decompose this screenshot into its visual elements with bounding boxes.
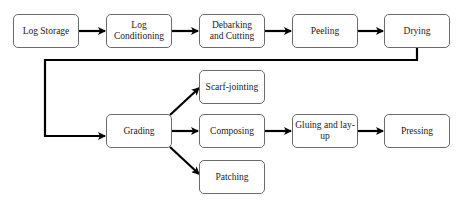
arrow-grading-to-patching: [170, 147, 199, 174]
node-grading: Grading: [106, 114, 172, 148]
node-label: Gluing and lay-up: [293, 120, 357, 142]
node-composing: Composing: [199, 114, 265, 148]
node-label: Log Storage: [23, 26, 70, 37]
node-label: Peeling: [311, 26, 340, 37]
node-patching: Patching: [199, 160, 265, 194]
node-label: Drying: [404, 26, 431, 37]
node-log-storage: Log Storage: [13, 14, 79, 48]
node-label: Pressing: [401, 126, 433, 137]
arrow-grading-to-scarf: [170, 88, 199, 115]
node-log-conditioning: Log Conditioning: [106, 14, 172, 48]
node-label: Grading: [123, 126, 154, 137]
node-pressing: Pressing: [384, 114, 450, 148]
node-label: Debarking and Cutting: [208, 20, 256, 42]
node-label: Scarf-jointing: [206, 82, 259, 93]
node-drying: Drying: [384, 14, 450, 48]
node-label: Composing: [210, 126, 254, 137]
node-scarf-jointing: Scarf-jointing: [199, 70, 265, 104]
node-peeling: Peeling: [292, 14, 358, 48]
node-label: Log Conditioning: [107, 20, 171, 42]
node-label: Patching: [215, 172, 248, 183]
node-gluing-layup: Gluing and lay-up: [292, 114, 358, 148]
node-debarking-cutting: Debarking and Cutting: [199, 14, 265, 48]
